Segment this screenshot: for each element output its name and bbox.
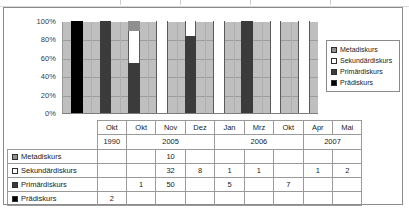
bar-segment-prim	[241, 21, 253, 113]
bar-segment-sek	[156, 21, 168, 113]
legend-item: Primärdiskurs	[331, 66, 396, 77]
table-cell	[333, 192, 362, 206]
bar-segment-prim	[100, 21, 112, 113]
year-header-cell: 1990	[97, 135, 126, 150]
bar-column	[120, 22, 148, 113]
table-row-label: Sekundärdiskurs	[8, 164, 98, 178]
table-cell	[215, 150, 244, 164]
bar-column	[233, 22, 261, 113]
table-cell	[97, 150, 126, 164]
table-cell	[244, 178, 273, 192]
y-tick-label: 80%	[41, 36, 56, 44]
bar-segment-sek	[298, 21, 310, 113]
chart-screenshot: 100%80%60%40%20%0% MetadiskursSekundärdi…	[0, 0, 409, 213]
y-tick-label: 100%	[36, 18, 56, 26]
table-row-label: Prädiskurs	[8, 192, 98, 206]
month-header-cell: Mai	[333, 121, 362, 135]
table-row: Prädiskurs2	[8, 192, 362, 206]
table-cell	[97, 164, 126, 178]
bar-segment-prae	[71, 21, 83, 113]
month-header-cell: Jan	[215, 121, 244, 135]
bar-segment-sek	[128, 31, 140, 63]
y-tick-label: 20%	[41, 92, 56, 100]
table-corner-blank	[8, 135, 98, 150]
table-row-label: Metadiskurs	[8, 150, 98, 164]
y-tick-label: 40%	[41, 73, 56, 81]
stacked-bar	[100, 21, 112, 113]
table-cell	[215, 192, 244, 206]
bar-series-container	[63, 22, 318, 113]
table-cell: 10	[156, 150, 185, 164]
table-cell	[244, 192, 273, 206]
legend-label: Prädiskurs	[340, 79, 373, 87]
month-header-cell: Okt	[274, 121, 303, 135]
bar-segment-meta	[128, 21, 140, 31]
table-cell	[274, 164, 303, 178]
table-cell: 5	[215, 178, 244, 192]
bar-segment-sek	[213, 21, 225, 113]
table-swatch-meta	[12, 154, 18, 160]
bar-segment-sek	[270, 21, 282, 113]
table-cell	[185, 150, 214, 164]
y-axis-tick-labels: 100%80%60%40%20%0%	[4, 8, 60, 108]
table-swatch-prae	[12, 196, 18, 202]
year-header-cell: 2006	[215, 135, 303, 150]
table-cell: 1	[215, 164, 244, 178]
table-cell	[303, 192, 332, 206]
legend-item: Metadiskurs	[331, 44, 396, 55]
table-swatch-sek	[12, 168, 18, 174]
bar-column	[63, 22, 91, 113]
legend-swatch-sek	[331, 58, 337, 64]
table-cell: 1	[244, 164, 273, 178]
table-cell	[126, 150, 155, 164]
table-cell: 1	[126, 178, 155, 192]
stacked-bar	[185, 21, 197, 113]
table-cell: 50	[156, 178, 185, 192]
table-corner-blank	[8, 121, 98, 135]
legend-swatch-prim	[331, 69, 337, 75]
table-row-years: 1990200520062007	[8, 135, 362, 150]
clipped-row-above	[0, 0, 409, 7]
bar-segment-sek	[185, 21, 197, 36]
legend-swatch-meta	[331, 47, 337, 53]
table-cell	[303, 150, 332, 164]
table-row: Sekundärdiskurs3281112	[8, 164, 362, 178]
stacked-bar	[298, 21, 310, 113]
bar-column	[205, 22, 233, 113]
table-cell	[303, 178, 332, 192]
bar-column	[148, 22, 176, 113]
legend-swatch-prae	[331, 80, 337, 86]
table-cell	[126, 164, 155, 178]
table-cell	[333, 150, 362, 164]
year-header-cell: 2005	[126, 135, 214, 150]
data-table: OktOktNovDezJanMrzOktAprMai1990200520062…	[7, 120, 362, 206]
table-cell: 1	[303, 164, 332, 178]
bar-segment-prim	[185, 36, 197, 113]
stacked-bar	[128, 21, 140, 113]
stacked-bar	[270, 21, 282, 113]
month-header-cell: Dez	[185, 121, 214, 135]
bar-segment-prim	[128, 63, 140, 113]
table-cell	[185, 178, 214, 192]
table-row-label-text: Metadiskurs	[21, 152, 61, 161]
table-cell	[244, 150, 273, 164]
bar-column	[290, 22, 318, 113]
table-cell: 8	[185, 164, 214, 178]
table-row-label: Primärdiskurs	[8, 178, 98, 192]
table-cell	[274, 192, 303, 206]
bar-column	[261, 22, 289, 113]
year-header-cell: 2007	[303, 135, 362, 150]
table-row-label-text: Prädiskurs	[21, 194, 56, 203]
y-tick-label: 60%	[41, 55, 56, 63]
chart-legend: MetadiskursSekundärdiskursPrimärdiskursP…	[326, 40, 400, 92]
legend-item: Sekundärdiskurs	[331, 55, 396, 66]
table-cell: 32	[156, 164, 185, 178]
stacked-bar	[213, 21, 225, 113]
legend-item: Prädiskurs	[331, 77, 396, 88]
table-cell	[333, 178, 362, 192]
table-cell	[97, 178, 126, 192]
table-row: Metadiskurs10	[8, 150, 362, 164]
table-row-months: OktOktNovDezJanMrzOktAprMai	[8, 121, 362, 135]
month-header-cell: Nov	[156, 121, 185, 135]
table-cell	[274, 150, 303, 164]
